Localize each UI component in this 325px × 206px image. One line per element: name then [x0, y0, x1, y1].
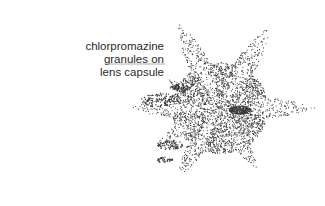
stellate-stipple-figure	[0, 0, 325, 206]
stipple-dots	[133, 25, 315, 173]
